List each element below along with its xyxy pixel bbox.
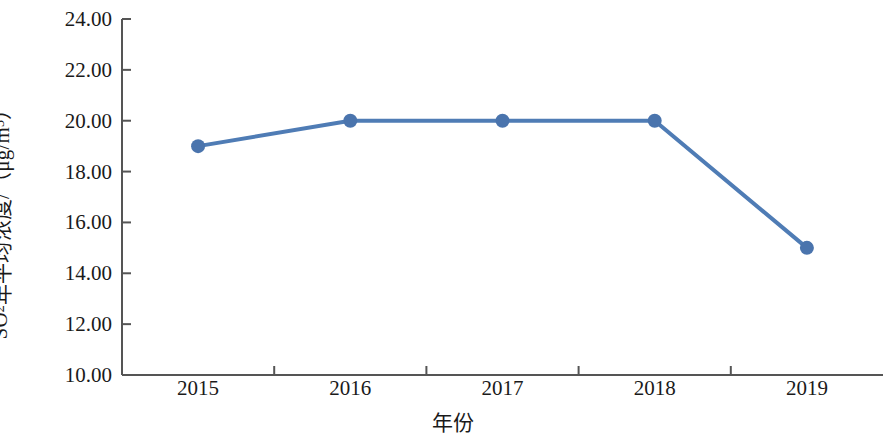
- y-axis-ticks: [122, 19, 131, 375]
- data-point-marker: [343, 114, 357, 128]
- data-point-marker: [800, 241, 814, 255]
- data-point-markers: [191, 114, 814, 255]
- chart-figure: SO2年平均浓度/（μg/m3） 24.0022.0020.0018.0016.…: [0, 0, 883, 438]
- data-point-marker: [191, 139, 205, 153]
- x-axis-ticks: [274, 366, 731, 375]
- plot-area: [0, 0, 883, 438]
- data-point-marker: [648, 114, 662, 128]
- data-point-marker: [496, 114, 510, 128]
- data-line-series-1: [198, 121, 807, 248]
- axis-lines: [122, 19, 883, 375]
